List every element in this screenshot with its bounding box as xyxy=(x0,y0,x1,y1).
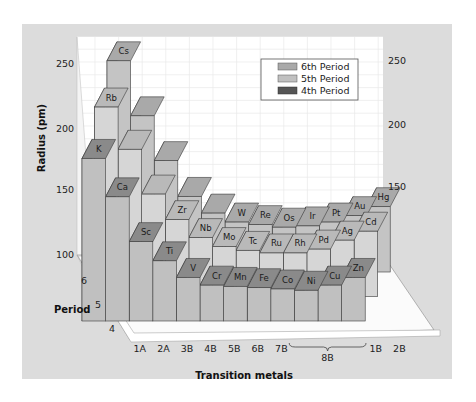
bar-label-sc: Sc xyxy=(141,227,151,237)
bar-label-rh: Rh xyxy=(294,238,305,248)
bar-label-zn: Zn xyxy=(353,263,364,273)
bar-label-cd: Cd xyxy=(365,217,376,227)
x-axis-title: Transition metals xyxy=(195,370,293,381)
x-tick-6b: 6B xyxy=(252,343,265,354)
right-tick-250: 250 xyxy=(388,55,406,66)
bar-label-mn: Mn xyxy=(234,272,247,282)
legend-label-5th: 5th Period xyxy=(301,73,349,84)
bar-label-v: V xyxy=(190,263,196,273)
x-tick-1a: 1A xyxy=(134,343,147,354)
bar-label-mo: Mo xyxy=(223,232,236,242)
right-tick-200: 200 xyxy=(388,119,406,130)
bar-label-cs: Cs xyxy=(119,46,130,56)
bar-label-ca: Ca xyxy=(117,182,128,192)
right-tick-150: 150 xyxy=(388,181,406,192)
x-tick-4b: 4B xyxy=(204,343,217,354)
y-axis-title: Radius (pm) xyxy=(36,104,47,172)
x-tick-1b: 1B xyxy=(370,343,383,354)
x-tick-2b: 2B xyxy=(393,343,406,354)
bar-label-re: Re xyxy=(260,210,271,220)
bar-label-ir: Ir xyxy=(310,211,317,221)
bar-label-tc: Tc xyxy=(248,236,258,246)
bar-label-co: Co xyxy=(282,275,293,285)
left-tick-200: 200 xyxy=(56,123,74,134)
bar-label-pd: Pd xyxy=(318,235,329,245)
bar-label-au: Au xyxy=(354,201,365,211)
bar-label-cr: Cr xyxy=(212,271,222,281)
period-tick-5: 5 xyxy=(95,299,101,310)
bar-label-ti: Ti xyxy=(165,246,173,256)
x-tick-5b: 5B xyxy=(228,343,241,354)
bar-label-cu: Cu xyxy=(329,271,340,281)
x-tick-7b: 7B xyxy=(275,343,288,354)
bar-label-w: W xyxy=(238,208,247,218)
bar-label-os: Os xyxy=(283,213,295,223)
legend-label-4th: 4th Period xyxy=(301,85,349,96)
bar-label-ru: Ru xyxy=(271,238,282,248)
bar-label-fe: Fe xyxy=(259,273,269,283)
x-tick-2a: 2A xyxy=(157,343,170,354)
legend-label-6th: 6th Period xyxy=(301,61,349,72)
period-axis-title: Period xyxy=(54,304,91,315)
bar-label-nb: Nb xyxy=(200,223,212,233)
left-tick-250: 250 xyxy=(56,58,74,69)
bar-label-ag: Ag xyxy=(342,226,353,236)
atomic-radius-3d-bar-chart: HgAuPtIrOsReWCsCdAgPdRhRuTcMoNbZrRbZnCuN… xyxy=(0,0,476,402)
bar-label-zr: Zr xyxy=(177,205,187,215)
bar-label-ni: Ni xyxy=(307,276,316,286)
x-tick-3b: 3B xyxy=(181,343,194,354)
bar-label-rb: Rb xyxy=(106,93,117,103)
legend-swatch-5th xyxy=(278,75,297,82)
legend: 6th Period 5th Period 4th Period xyxy=(261,59,358,100)
left-tick-150: 150 xyxy=(56,184,74,195)
x-tick-8b: 8B xyxy=(321,352,334,363)
bar-label-hg: Hg xyxy=(378,192,390,202)
period-tick-4: 4 xyxy=(109,323,115,334)
bar-label-pt: Pt xyxy=(332,208,341,218)
left-tick-100: 100 xyxy=(56,249,74,260)
period-tick-6: 6 xyxy=(81,275,87,286)
legend-swatch-4th xyxy=(278,87,297,94)
legend-swatch-6th xyxy=(278,63,297,70)
bar-label-k: K xyxy=(96,144,102,154)
